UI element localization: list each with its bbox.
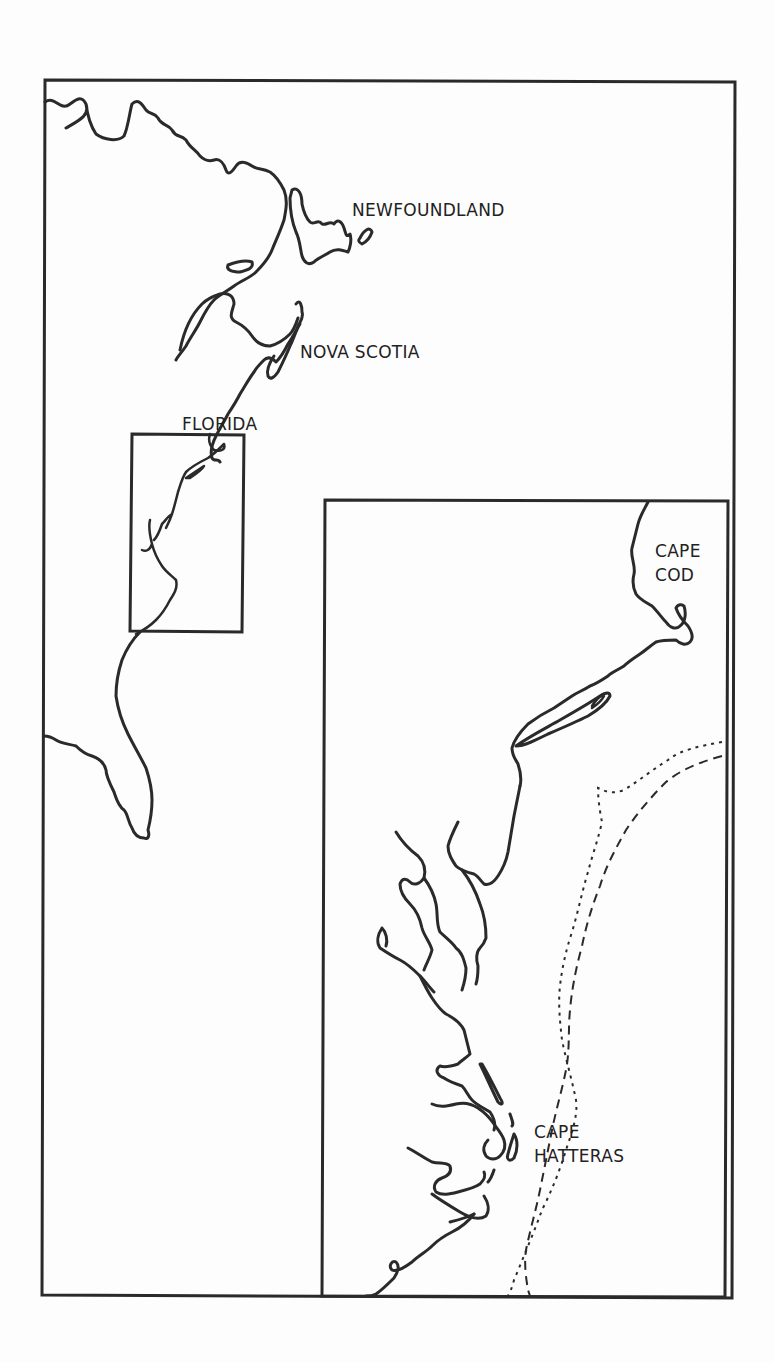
overview-coastline-st-lawrence (180, 293, 298, 350)
overview-coastline-midatlantic (136, 434, 224, 634)
inset-coastline-south (366, 1214, 474, 1296)
overview-coastline-north (45, 99, 286, 360)
newfoundland-island (290, 189, 351, 264)
newfoundland-avalon (359, 229, 372, 244)
inset-lower-sound (432, 1194, 488, 1222)
label-cape-cod: CAPE COD (655, 539, 701, 587)
label-newfoundland: NEWFOUNDLAND (352, 198, 505, 222)
nova-scotia-coastline (211, 302, 302, 462)
offshore-dotted-line (508, 742, 722, 1296)
inset-coastline-virginia (420, 976, 495, 1130)
overview-coastline-southeast (44, 632, 152, 839)
inset-outer-banks (480, 1064, 517, 1182)
label-florida: FLORIDA (182, 412, 257, 436)
overview-inset-rectangle[interactable] (130, 434, 244, 632)
label-cape-hatteras: CAPE HATTERAS (534, 1120, 624, 1168)
inset-pamlico-sound (408, 1148, 485, 1194)
inset-coastline-new-jersey (448, 786, 520, 885)
label-nova-scotia: NOVA SCOTIA (300, 340, 420, 364)
inset-chesapeake-west (396, 832, 432, 970)
overview-long-island (186, 466, 204, 478)
detail-inset-frame (322, 500, 728, 1297)
outer-frame (42, 80, 735, 1298)
anticosti-island (228, 261, 253, 272)
inset-chesapeake-east (424, 878, 466, 990)
offshore-dashed-line (525, 756, 722, 1296)
